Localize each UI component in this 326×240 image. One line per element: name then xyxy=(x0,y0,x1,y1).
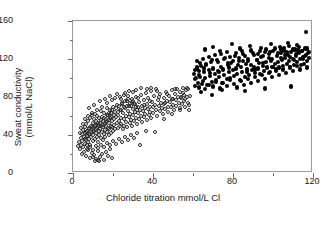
x-tick-minor xyxy=(193,173,194,176)
data-point-open-circles xyxy=(152,94,156,98)
x-tick-label: 40 xyxy=(147,176,157,186)
x-tick-minor xyxy=(273,173,274,176)
data-point-filled-circles xyxy=(246,59,250,63)
x-tick-major xyxy=(73,173,74,178)
x-axis-label: Chloride titration mmol/L Cl xyxy=(0,192,326,203)
data-point-open-circles xyxy=(148,99,152,103)
data-point-filled-circles xyxy=(234,66,238,70)
data-point-filled-circles xyxy=(210,58,214,62)
data-point-filled-circles xyxy=(235,85,239,89)
data-point-filled-circles xyxy=(231,59,235,63)
data-point-open-circles xyxy=(126,97,130,101)
data-point-filled-circles xyxy=(253,67,257,71)
data-point-filled-circles xyxy=(240,70,244,74)
data-point-open-circles xyxy=(187,108,191,112)
plot-area xyxy=(72,20,312,172)
data-point-filled-circles xyxy=(227,65,231,69)
x-tick-minor xyxy=(113,173,114,176)
y-tick-minor xyxy=(70,154,73,155)
data-point-filled-circles xyxy=(217,70,221,74)
data-point-filled-circles xyxy=(270,75,274,79)
data-point-filled-circles xyxy=(220,88,224,92)
data-point-open-circles xyxy=(171,97,175,101)
data-point-filled-circles xyxy=(296,48,300,52)
data-point-filled-circles xyxy=(277,73,281,77)
data-point-open-circles xyxy=(92,103,96,107)
data-point-filled-circles xyxy=(230,42,234,46)
data-point-filled-circles xyxy=(225,84,229,88)
data-point-open-circles xyxy=(154,108,158,112)
data-point-open-circles xyxy=(125,125,129,129)
data-point-open-circles xyxy=(144,91,148,95)
data-point-filled-circles xyxy=(279,47,283,51)
data-point-filled-circles xyxy=(234,51,238,55)
data-point-open-circles xyxy=(114,142,118,146)
x-tick-label: 80 xyxy=(227,176,237,186)
data-point-open-circles xyxy=(91,148,95,152)
data-point-open-circles xyxy=(178,108,182,112)
data-point-open-circles xyxy=(149,89,153,93)
data-point-open-circles xyxy=(105,101,109,105)
data-point-filled-circles xyxy=(226,61,230,65)
data-point-filled-circles xyxy=(241,59,245,63)
y-axis-label-line1: Sweat conductivity xyxy=(12,68,23,147)
data-point-open-circles xyxy=(98,99,102,103)
data-point-open-circles xyxy=(153,130,157,134)
data-point-filled-circles xyxy=(305,65,309,69)
data-point-open-circles xyxy=(135,131,139,135)
data-point-filled-circles xyxy=(261,61,265,65)
data-point-open-circles xyxy=(140,120,144,124)
data-point-filled-circles xyxy=(201,57,205,61)
data-point-filled-circles xyxy=(242,83,246,87)
data-point-filled-circles xyxy=(222,57,226,61)
data-point-filled-circles xyxy=(203,87,207,91)
data-point-filled-circles xyxy=(203,47,207,51)
data-point-filled-circles xyxy=(225,50,229,54)
data-point-filled-circles xyxy=(248,44,252,48)
data-point-filled-circles xyxy=(287,44,291,48)
data-point-filled-circles xyxy=(249,48,253,52)
data-point-filled-circles xyxy=(213,53,217,57)
data-point-filled-circles xyxy=(202,66,206,70)
y-tick-minor xyxy=(70,116,73,117)
data-point-filled-circles xyxy=(217,75,221,79)
data-point-open-circles xyxy=(142,103,146,107)
data-point-filled-circles xyxy=(216,60,220,64)
data-point-filled-circles xyxy=(210,93,214,97)
data-point-open-circles xyxy=(134,88,138,92)
data-point-filled-circles xyxy=(214,80,218,84)
data-point-open-circles xyxy=(103,97,107,101)
y-tick-minor xyxy=(70,78,73,79)
data-point-open-circles xyxy=(145,118,149,122)
data-point-filled-circles xyxy=(243,89,247,93)
data-point-filled-circles xyxy=(298,67,302,71)
data-point-open-circles xyxy=(120,140,124,144)
y-tick-major xyxy=(68,97,73,98)
data-point-open-circles xyxy=(183,97,187,101)
data-point-filled-circles xyxy=(307,50,311,54)
data-point-open-circles xyxy=(162,117,166,121)
data-point-open-circles xyxy=(135,122,139,126)
data-point-filled-circles xyxy=(273,46,277,50)
data-point-open-circles xyxy=(84,130,88,134)
data-point-filled-circles xyxy=(265,65,269,69)
data-point-filled-circles xyxy=(271,65,275,69)
data-point-open-circles xyxy=(100,105,104,109)
data-point-filled-circles xyxy=(235,72,239,76)
y-tick-label: 40 xyxy=(3,129,13,139)
data-point-open-circles xyxy=(102,145,106,149)
data-point-open-circles xyxy=(136,96,140,100)
data-point-filled-circles xyxy=(238,46,242,50)
x-tick-label: 120 xyxy=(304,176,319,186)
data-point-filled-circles xyxy=(199,90,203,94)
data-point-filled-circles xyxy=(249,81,253,85)
data-point-open-circles xyxy=(108,147,112,151)
data-point-filled-circles xyxy=(289,84,293,88)
x-tick-major xyxy=(233,173,234,178)
data-point-filled-circles xyxy=(256,79,260,83)
data-point-open-circles xyxy=(81,122,85,126)
data-point-filled-circles xyxy=(202,70,206,74)
data-point-filled-circles xyxy=(263,86,267,90)
x-tick-major xyxy=(313,173,314,178)
data-point-filled-circles xyxy=(261,54,265,58)
